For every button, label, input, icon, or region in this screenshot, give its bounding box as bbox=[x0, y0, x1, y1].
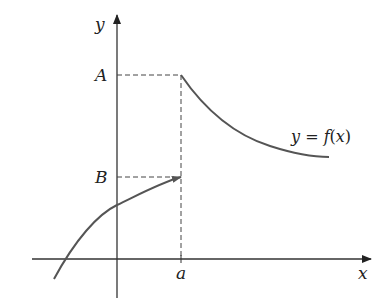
eq-close-paren: ) bbox=[345, 127, 351, 146]
label-A: A bbox=[93, 65, 107, 85]
y-axis-label: y bbox=[94, 14, 105, 34]
label-a: a bbox=[176, 263, 186, 283]
label-B: B bbox=[94, 167, 108, 187]
x-axis-label: x bbox=[358, 263, 368, 283]
curve-equation-label: y = f(x) bbox=[290, 127, 351, 146]
eq-equals: = bbox=[300, 127, 324, 146]
eq-x: x bbox=[336, 127, 345, 146]
function-graph-diagram: y x A B a y = f(x) bbox=[0, 0, 390, 304]
